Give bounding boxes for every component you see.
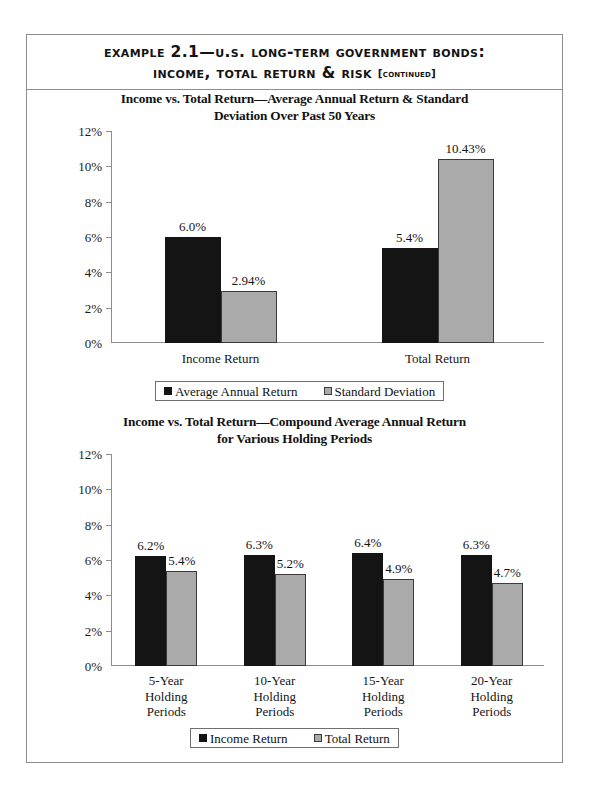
x-axis-category-label: 20-YearHoldingPeriods [424,673,561,720]
legend-item[interactable]: Average Annual Return [164,385,298,398]
y-axis-ticks: 0%2%4%6%8%10%12% [56,454,102,666]
chart-one-title-line-1: Income vs. Total Return—Average Annual R… [65,90,524,107]
header-line2-text: Income, Total Return & Risk [153,64,378,82]
bar [166,571,197,666]
chart-compound-annual-return-holding-periods: Income vs. Total Return—Compound Average… [27,413,562,758]
x-axis-category-label: Total Return [315,351,560,367]
chart-two-title-line-2: for Various Holding Periods [65,430,524,447]
y-axis-tick-label: 4% [56,589,102,602]
exhibit-header-line-1: Example 2.1—U.S. Long-Term Government Bo… [104,42,485,63]
y-axis-tick-label: 8% [56,518,102,531]
legend-item[interactable]: Standard Deviation [324,385,436,398]
legend-item-label: Income Return [210,732,288,745]
y-axis-tick-label: 6% [56,231,102,244]
bar-value-label: 5.2% [261,557,320,570]
bar-value-label: 5.4% [152,554,211,567]
legend-item-label: Standard Deviation [335,385,436,398]
exhibit-header: Example 2.1—U.S. Long-Term Government Bo… [27,35,562,90]
legend-swatch-dark-icon [164,387,172,395]
y-axis-ticks: 0%2%4%6%8%10%12% [56,131,102,343]
y-axis-tick-label: 12% [56,448,102,461]
bar [275,574,306,666]
y-axis-tick-label: 0% [56,660,102,673]
bar-value-label: 6.3% [447,538,506,551]
bar-value-label: 6.0% [151,220,235,233]
header-label-example: Example [104,43,171,61]
chart-legend[interactable]: Income ReturnTotal Return [190,728,399,748]
bar [135,556,166,666]
y-axis-tick-label: 2% [56,624,102,637]
header-continued-tag: [continued] [378,67,436,79]
chart-one-title: Income vs. Total Return—Average Annual R… [65,90,524,124]
bar [382,248,438,343]
legend-swatch-dark-icon [199,734,207,742]
chart-income-vs-total-return-annual: Income vs. Total Return—Average Annual R… [27,90,562,435]
bar [165,237,221,343]
header-example-number: 2.1 [171,43,200,61]
bar [383,579,414,666]
chart-two-title-line-1: Income vs. Total Return—Compound Average… [65,413,524,430]
page-frame: Example 2.1—U.S. Long-Term Government Bo… [26,34,563,763]
bar-value-label: 10.43% [424,142,508,155]
y-axis-tick-label: 8% [56,195,102,208]
y-axis-tick-label: 2% [56,301,102,314]
bar [244,555,275,666]
bar-value-label: 6.2% [121,539,180,552]
y-axis-tick-label: 12% [56,125,102,138]
bar-value-label: 6.4% [338,536,397,549]
y-axis-tick-label: 4% [56,266,102,279]
bar-value-label: 4.9% [369,562,428,575]
legend-item-label: Average Annual Return [175,385,298,398]
y-axis-tick-label: 6% [56,554,102,567]
bars-layer: 6.0%2.94%Income Return5.4%10.43%Total Re… [112,131,544,343]
bar [221,291,277,343]
bar [438,159,494,343]
x-axis-category-label: Income Return [98,351,343,367]
y-axis-tick-label: 10% [56,483,102,496]
bar-value-label: 4.7% [478,566,537,579]
bars-layer: 6.2%5.4%5-YearHoldingPeriods6.3%5.2%10-Y… [112,454,544,666]
bar-value-label: 6.3% [230,538,289,551]
y-axis-tick-label: 10% [56,160,102,173]
chart-one-plot-area: 0%2%4%6%8%10%12%6.0%2.94%Income Return5.… [27,131,562,343]
y-axis-tick-label: 0% [56,337,102,350]
legend-item-label: Total Return [325,732,390,745]
legend-swatch-light-icon [324,387,332,395]
header-line1-rest: —U.S. Long-Term Government Bonds: [199,43,485,61]
legend-item[interactable]: Income Return [199,732,288,745]
chart-two-title: Income vs. Total Return—Compound Average… [65,413,524,447]
bar-value-label: 2.94% [207,274,291,287]
legend-swatch-light-icon [314,734,322,742]
legend-item[interactable]: Total Return [314,732,390,745]
exhibit-header-line-2: Income, Total Return & Risk [continued] [153,63,436,84]
chart-two-plot-area: 0%2%4%6%8%10%12%6.2%5.4%5-YearHoldingPer… [27,454,562,666]
bar [492,583,523,666]
chart-legend[interactable]: Average Annual ReturnStandard Deviation [155,381,444,401]
chart-one-title-line-2: Deviation Over Past 50 Years [65,107,524,124]
